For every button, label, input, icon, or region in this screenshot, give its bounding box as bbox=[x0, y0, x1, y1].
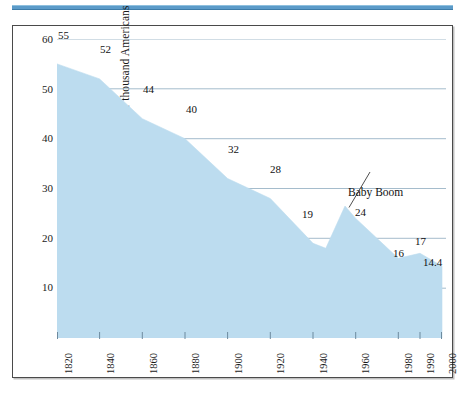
x-tick-label-1920: 1920 bbox=[275, 340, 287, 374]
data-label-1900: 32 bbox=[228, 144, 239, 155]
y-tick-label-30: 30 bbox=[31, 183, 53, 194]
x-tick-label-1820: 1820 bbox=[63, 340, 75, 374]
x-tick-label-2000: 2000 bbox=[447, 340, 459, 374]
data-label-2000: 14.4 bbox=[423, 257, 442, 268]
x-tick-label-1840: 1840 bbox=[105, 340, 117, 374]
y-tick-label-50: 50 bbox=[31, 84, 53, 95]
data-label-1960: 24 bbox=[355, 207, 366, 218]
data-label-1860: 44 bbox=[143, 84, 154, 95]
x-tick-label-1980: 1980 bbox=[403, 340, 415, 374]
x-axis-tick-labels: 1820 1840 1860 1880 1900 1920 1940 1960 … bbox=[57, 340, 452, 380]
y-tick-label-40: 40 bbox=[31, 133, 53, 144]
figure-page: Births per thousand Americans 60 50 40 3… bbox=[0, 0, 465, 402]
x-tick-label-1880: 1880 bbox=[190, 340, 202, 374]
x-tick-label-1860: 1860 bbox=[148, 340, 160, 374]
data-label-1980: 16 bbox=[393, 248, 404, 259]
y-axis-tick-labels: 60 50 40 30 20 10 bbox=[29, 39, 53, 338]
data-label-1990: 17 bbox=[415, 236, 426, 247]
data-label-1820: 55 bbox=[58, 30, 69, 41]
data-label-1920: 28 bbox=[270, 164, 281, 175]
data-label-1840: 52 bbox=[100, 44, 111, 55]
data-label-1940: 19 bbox=[302, 209, 313, 220]
x-tick-label-1900: 1900 bbox=[233, 340, 245, 374]
x-tick-label-1940: 1940 bbox=[318, 340, 330, 374]
x-axis-tick-marks bbox=[57, 332, 452, 342]
y-tick-label-10: 10 bbox=[31, 282, 53, 293]
y-tick-label-60: 60 bbox=[31, 34, 53, 45]
plot-area: 55 52 44 40 32 28 19 24 16 17 14.4 Baby … bbox=[57, 39, 446, 338]
data-label-1880: 40 bbox=[186, 104, 197, 115]
births-area-series bbox=[57, 64, 442, 338]
chart-figure-frame: Births per thousand Americans 60 50 40 3… bbox=[12, 25, 453, 378]
y-tick-label-20: 20 bbox=[31, 233, 53, 244]
x-tick-label-1960: 1960 bbox=[360, 340, 372, 374]
baby-boom-annotation-label: Baby Boom bbox=[348, 186, 403, 198]
decorative-horizontal-rule bbox=[12, 5, 453, 10]
x-tick-label-1990: 1990 bbox=[425, 340, 437, 374]
